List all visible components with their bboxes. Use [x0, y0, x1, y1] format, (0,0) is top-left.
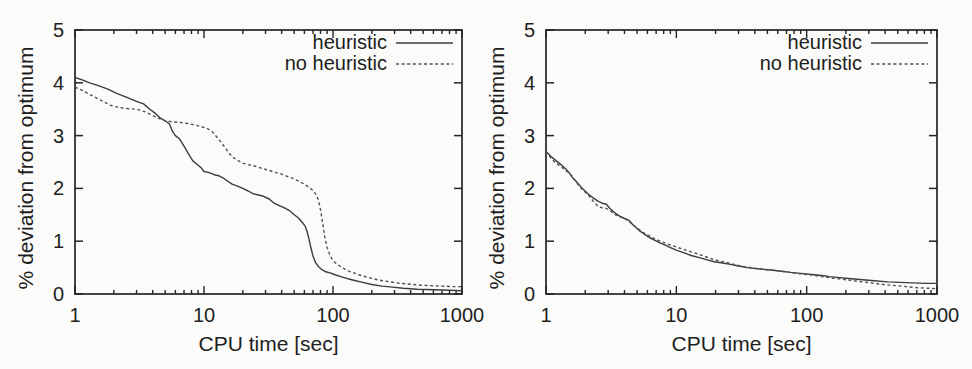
y-tick-label: 3: [53, 125, 64, 147]
y-tick-label: 0: [53, 283, 64, 305]
x-axis-label: CPU time [sec]: [671, 332, 811, 355]
legend-label-no-heuristic: no heuristic: [285, 52, 387, 74]
right-chart: 0123451101001000heuristicno heuristicCPU…: [486, 0, 972, 369]
y-tick-label: 1: [53, 230, 64, 252]
y-tick-label: 1: [524, 230, 535, 252]
plot-border: [75, 30, 462, 294]
y-axis-label: % deviation from optimum: [486, 47, 508, 290]
curve-heuristic: [546, 151, 937, 283]
x-tick-label: 1000: [440, 304, 485, 326]
x-tick-label: 10: [193, 304, 215, 326]
y-tick-label: 5: [53, 19, 64, 41]
plot-border: [546, 30, 937, 294]
y-tick-label: 5: [524, 19, 535, 41]
y-tick-label: 2: [524, 177, 535, 199]
x-axis-label: CPU time [sec]: [198, 332, 338, 355]
x-tick-label: 100: [316, 304, 349, 326]
x-tick-label: 10: [665, 304, 687, 326]
legend-label-heuristic: heuristic: [788, 31, 862, 53]
y-tick-label: 4: [53, 72, 64, 94]
y-tick-label: 4: [524, 72, 535, 94]
legend-label-heuristic: heuristic: [313, 31, 387, 53]
x-tick-label: 1: [69, 304, 80, 326]
x-tick-label: 100: [790, 304, 823, 326]
left-chart: 0123451101001000heuristicno heuristicCPU…: [0, 0, 486, 369]
y-tick-label: 3: [524, 125, 535, 147]
y-tick-label: 2: [53, 177, 64, 199]
y-tick-label: 0: [524, 283, 535, 305]
curve-no-heuristic: [75, 87, 462, 287]
x-tick-label: 1: [540, 304, 551, 326]
curve-no-heuristic: [546, 151, 937, 288]
y-axis-label: % deviation from optimum: [14, 47, 37, 290]
x-tick-label: 1000: [915, 304, 960, 326]
legend-label-no-heuristic: no heuristic: [760, 52, 862, 74]
two-panel-line-figure: 0123451101001000heuristicno heuristicCPU…: [0, 0, 972, 369]
